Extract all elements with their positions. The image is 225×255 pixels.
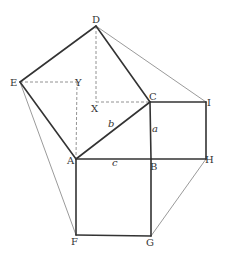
label-E: E: [10, 77, 17, 88]
label-G: G: [146, 237, 154, 248]
segment-EA: [20, 82, 76, 159]
segment-HG: [151, 159, 206, 236]
segment-FG: [76, 235, 151, 236]
pythagorean-diagram: D E Y X C I A B H F G b a c: [0, 0, 225, 255]
square-and-triangle-edges: [20, 26, 206, 236]
segment-CD: [96, 26, 150, 102]
side-label-b: b: [108, 118, 114, 129]
segment-YA: [76, 82, 77, 159]
segment-AC: [76, 102, 150, 159]
label-H: H: [205, 154, 214, 165]
label-B: B: [150, 161, 157, 172]
label-A: A: [66, 155, 75, 166]
label-I: I: [207, 97, 211, 108]
side-label-a: a: [152, 123, 158, 134]
label-F: F: [71, 236, 78, 247]
label-D: D: [92, 14, 100, 25]
side-label-c: c: [112, 157, 118, 168]
segment-DE: [20, 26, 96, 82]
dashed-construction-lines: [20, 26, 150, 159]
segment-CB: [150, 102, 151, 159]
label-X: X: [91, 103, 99, 114]
label-Y: Y: [74, 77, 82, 88]
label-C: C: [149, 91, 157, 102]
